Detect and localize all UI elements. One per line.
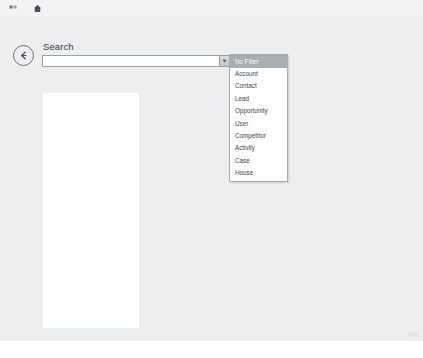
filter-menu-item[interactable]: Lead xyxy=(230,93,287,105)
application-window: Search No FilterAccountContactLeadOpport… xyxy=(0,0,423,341)
filter-menu-item[interactable]: Activity xyxy=(230,142,287,154)
content-surface: Search No FilterAccountContactLeadOpport… xyxy=(0,16,423,341)
filter-menu-item[interactable]: Account xyxy=(230,68,287,80)
filter-menu-item[interactable]: House xyxy=(230,167,287,179)
results-list-panel[interactable] xyxy=(42,92,140,329)
filter-menu-item[interactable]: Contact xyxy=(230,80,287,92)
back-arrow-icon xyxy=(17,49,30,62)
top-command-bar xyxy=(0,0,423,16)
back-button[interactable] xyxy=(13,45,34,66)
grid-icon[interactable] xyxy=(9,4,18,13)
filter-menu-item[interactable]: No Filter xyxy=(230,55,287,68)
search-input[interactable] xyxy=(42,55,219,67)
chevron-down-icon xyxy=(222,59,227,63)
home-icon[interactable] xyxy=(33,4,42,13)
search-label: Search xyxy=(43,41,74,52)
filter-menu-item[interactable]: Competitor xyxy=(230,130,287,142)
search-row xyxy=(42,55,230,67)
filter-menu[interactable]: No FilterAccountContactLeadOpportunityUs… xyxy=(229,54,288,182)
filter-menu-item[interactable]: Case xyxy=(230,155,287,167)
resize-grip[interactable] xyxy=(408,332,418,337)
filter-menu-item[interactable]: Opportunity xyxy=(230,105,287,117)
filter-menu-item[interactable]: User xyxy=(230,118,287,130)
